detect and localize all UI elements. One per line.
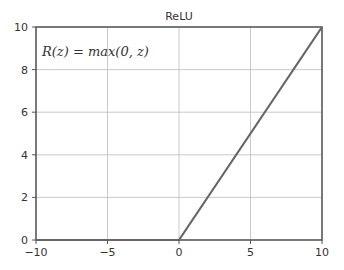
x-tick-label: −5 bbox=[99, 246, 115, 259]
y-axis-ticks: 0246810 bbox=[14, 21, 36, 247]
y-tick-label: 6 bbox=[21, 106, 28, 119]
x-tick-label: −10 bbox=[24, 246, 47, 259]
relu-chart: −10−50510 0246810 ReLU R(z) = max(0, z) bbox=[0, 0, 344, 270]
y-tick-label: 0 bbox=[21, 234, 28, 247]
y-tick-label: 2 bbox=[21, 191, 28, 204]
y-tick-label: 4 bbox=[21, 149, 28, 162]
y-tick-label: 10 bbox=[14, 21, 28, 34]
chart-title: ReLU bbox=[165, 10, 193, 23]
x-tick-label: 0 bbox=[176, 246, 183, 259]
x-axis-ticks: −10−50510 bbox=[24, 240, 329, 259]
y-tick-label: 8 bbox=[21, 64, 28, 77]
x-tick-label: 10 bbox=[315, 246, 329, 259]
formula-annotation: R(z) = max(0, z) bbox=[41, 44, 149, 59]
x-tick-label: 5 bbox=[247, 246, 254, 259]
